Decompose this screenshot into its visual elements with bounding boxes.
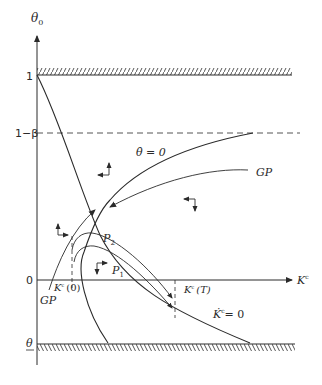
gp-lower-label: GP — [40, 294, 57, 307]
direction-arrows-lower-left — [58, 224, 68, 235]
k-dot-zero-label: K̇c= 0 — [212, 307, 244, 321]
y-tick-one-minus-beta: 1−β — [15, 127, 38, 140]
gp-upper-path — [110, 170, 248, 207]
y-tick-theta-lower: θ — [26, 337, 33, 350]
direction-arrows-upper-right — [184, 199, 195, 211]
x-axis-label: Kc — [296, 273, 309, 287]
theta-dot-zero-label: θ̇ = 0 — [136, 146, 166, 159]
k-dot-zero-curve — [37, 75, 250, 343]
point-p2-label: P2 — [102, 232, 115, 247]
direction-arrows-lower-middle — [97, 263, 107, 274]
y-tick-zero: 0 — [26, 274, 33, 287]
gp-upper-label: GP — [256, 166, 273, 179]
phase-diagram: θ0 Kc 1 θ 1−β 0 K̇c= 0 θ̇ = 0 Kc(0) Kc(T… — [0, 0, 322, 385]
upper-boundary — [37, 68, 292, 75]
y-axis-label: θ0 — [31, 11, 43, 27]
point-p1-label: P1 — [111, 264, 124, 279]
k-initial-label: Kc(0) — [53, 282, 81, 293]
lower-boundary — [37, 344, 295, 351]
k-terminal-label: Kc(T) — [183, 284, 211, 295]
direction-arrows-upper-left — [98, 163, 109, 175]
y-tick-one: 1 — [26, 70, 33, 83]
